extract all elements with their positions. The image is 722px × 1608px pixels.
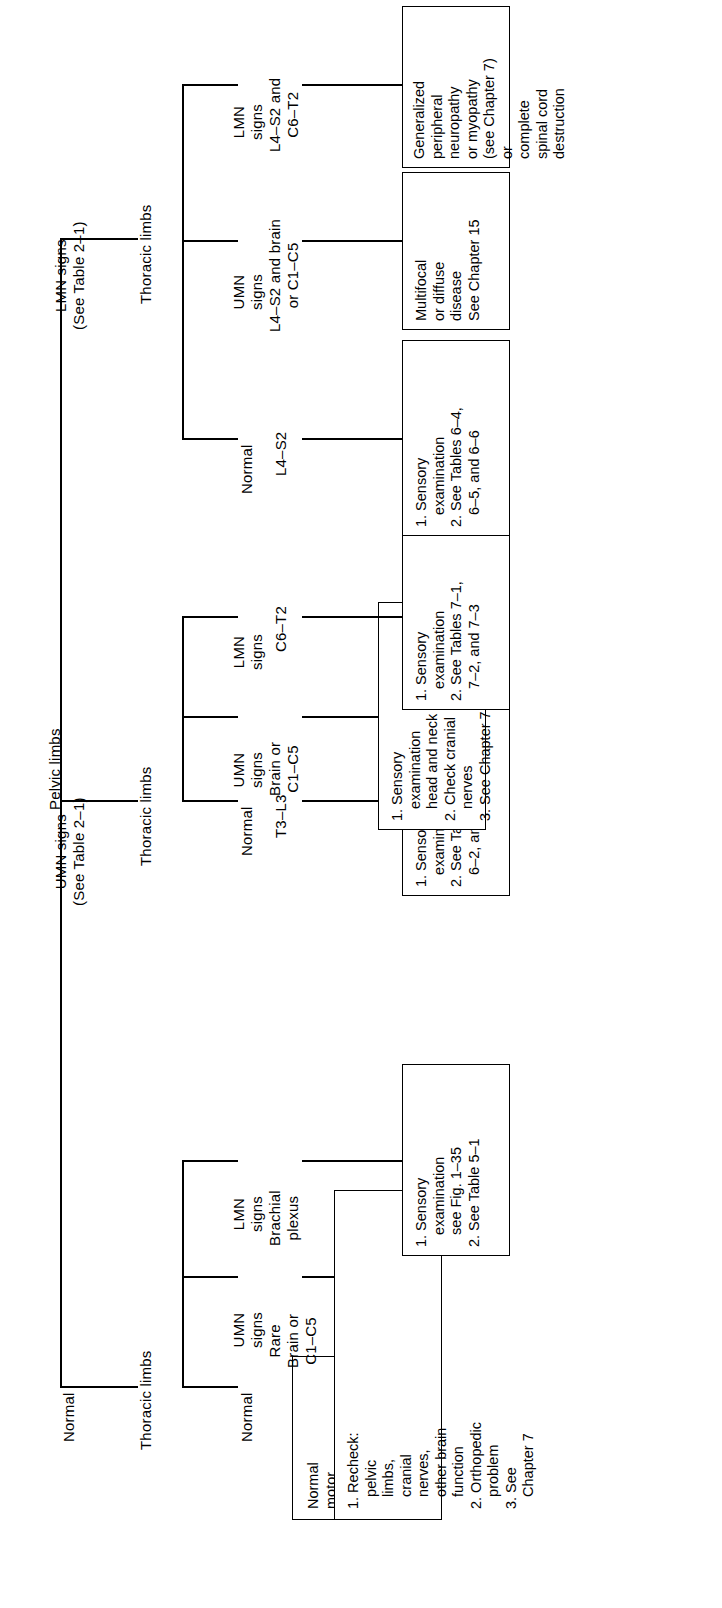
branch-b9-sign: LMN signs: [230, 104, 266, 140]
connector-b2-box: [302, 1276, 334, 1278]
connector-b9-box: [302, 84, 402, 86]
connector-b7-box: [302, 438, 402, 440]
branch-b8-localization: L4–S2 and brain or C1–C5: [266, 219, 302, 332]
branch-b9-box: Generalized peripheral neuropathy or myo…: [402, 6, 510, 168]
branch-b8-box-text: Multifocal or diffuse disease See Chapte…: [413, 171, 483, 321]
flowchart-canvas: Pelvic limbs Normal UMN signs (See Table…: [0, 0, 722, 1608]
connector-lmn-b8: [182, 240, 238, 242]
branch-b6-box: 1. Sensory examination 2. See Tables 7–1…: [402, 516, 510, 710]
group-umn-spine: [182, 616, 184, 802]
branch-b3-box: 1. Sensory examination see Fig. 1–35 2. …: [402, 1064, 510, 1256]
level2-label-umn-thoracic: Thoracic limbs: [137, 767, 155, 867]
branch-b8-box: Multifocal or diffuse disease See Chapte…: [402, 172, 510, 330]
branch-b3-sign: LMN signs: [230, 1196, 266, 1232]
connector-umn-b4: [182, 800, 238, 802]
branch-b7-sign: Normal: [238, 444, 256, 494]
connector-b5-box: [302, 716, 378, 718]
group-normal-spine: [182, 1160, 184, 1388]
connector-b8-box: [302, 240, 402, 242]
branch-b8-sign: UMN signs: [230, 274, 266, 310]
level1-label-lmn: LMN signs (See Table 2–1): [52, 221, 88, 330]
branch-b5-localization: Brain or C1–C5: [266, 742, 302, 796]
branch-b6-localization: C6–T2: [272, 606, 290, 652]
level2-label-lmn-thoracic: Thoracic limbs: [137, 205, 155, 305]
branch-b4-sign: Normal: [238, 806, 256, 856]
branch-b6-box-text: 1. Sensory examination 2. See Tables 7–1…: [413, 516, 483, 701]
branch-b1-sign: Normal: [238, 1392, 256, 1442]
branch-b3-box-text: 1. Sensory examination see Fig. 1–35 2. …: [413, 1062, 483, 1247]
branch-b9-box-text: Generalized peripheral neuropathy or myo…: [411, 0, 569, 159]
connector-root-normal: [60, 1386, 138, 1388]
branch-b7-box-text: 1. Sensory examination 2. See Tables 6–4…: [413, 339, 483, 527]
branch-b6-sign: LMN signs: [230, 634, 266, 670]
branch-b9-localization: L4–S2 and C6–T2: [266, 78, 302, 152]
connector-b6-box: [302, 616, 402, 618]
connector-umn-b5: [182, 716, 238, 718]
branch-b2-sign: UMN signs: [230, 1312, 266, 1348]
connector-umn-b6: [182, 616, 238, 618]
branch-b7-localization: L4–S2: [272, 432, 290, 476]
branch-b7-box: 1. Sensory examination 2. See Tables 6–4…: [402, 340, 510, 536]
connector-normal-b1: [182, 1386, 238, 1388]
connector-normal-b3: [182, 1160, 238, 1162]
branch-b3-localization: Brachial plexus: [266, 1190, 302, 1246]
branch-b2-localization: Rare Brain or C1–C5: [266, 1314, 320, 1368]
level1-label-normal: Normal: [60, 1392, 78, 1442]
connector-lmn-b9: [182, 84, 238, 86]
group-lmn-spine: [182, 84, 184, 440]
connector-lmn-b7: [182, 438, 238, 440]
branch-b5-sign: UMN signs: [230, 752, 266, 788]
connector-normal-b2: [182, 1276, 238, 1278]
connector-b3-box: [302, 1160, 402, 1162]
branch-b4-localization: T3–L3: [272, 794, 290, 838]
level1-label-umn: UMN signs (See Table 2–1): [52, 797, 88, 906]
level2-label-normal-thoracic: Thoracic limbs: [137, 1351, 155, 1451]
